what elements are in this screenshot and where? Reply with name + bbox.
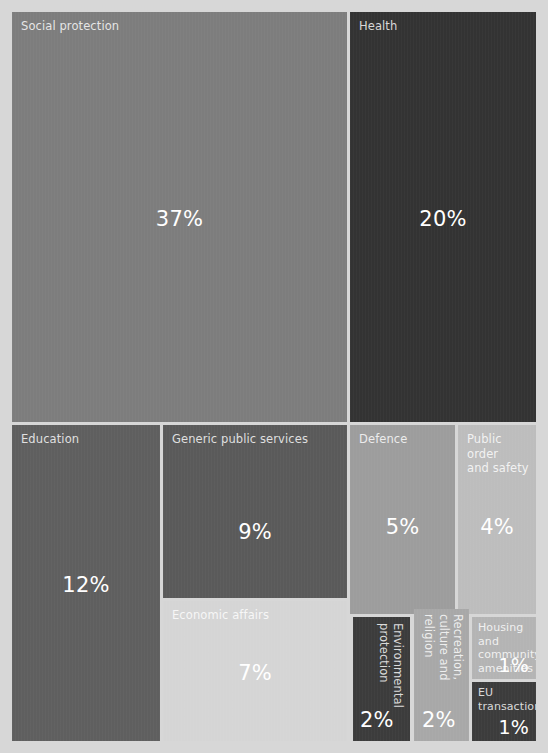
treemap-tile-eu-transactions[interactable]: EU transactions 1% — [472, 682, 536, 741]
treemap-tile-label-health: Health — [359, 19, 530, 34]
treemap-tile-label-social-protection: Social protection — [21, 19, 341, 34]
treemap-tile-label-eu-transactions: EU transactions — [478, 686, 530, 713]
treemap-tile-recreation-culture-and-religion[interactable]: Recreation, culture and religion 2% — [414, 609, 469, 741]
treemap-tile-housing-and-community-amenities[interactable]: Housing and community amenities 1% — [472, 617, 536, 679]
treemap-tile-value-housing-and-community-amenities: 1% — [498, 655, 529, 676]
treemap-tile-label-defence: Defence — [359, 432, 449, 447]
treemap-tile-value-defence: 5% — [350, 517, 455, 538]
treemap-tile-value-recreation-culture-and-religion: 2% — [422, 710, 456, 731]
treemap-tile-value-social-protection: 37% — [12, 209, 347, 230]
treemap-tile-value-generic-public-services: 9% — [163, 522, 347, 543]
treemap-tile-value-environmental-protection: 2% — [360, 710, 394, 731]
treemap-tile-value-education: 12% — [12, 575, 160, 596]
treemap-tile-environmental-protection[interactable]: Environmental protection 2% — [353, 617, 410, 741]
treemap-tile-economic-affairs[interactable]: Economic affairs 7% — [163, 601, 347, 741]
treemap-tile-generic-public-services[interactable]: Generic public services 9% — [163, 425, 347, 598]
treemap-tile-value-health: 20% — [350, 209, 536, 230]
treemap-tile-public-order-and-safety[interactable]: Public order and safety 4% — [458, 425, 536, 614]
treemap-tile-label-public-order-and-safety: Public order and safety — [467, 432, 530, 476]
treemap-tile-label-education: Education — [21, 432, 154, 447]
treemap-tile-social-protection[interactable]: Social protection 37% — [12, 12, 347, 422]
treemap-tile-education[interactable]: Education 12% — [12, 425, 160, 741]
treemap-tile-value-economic-affairs: 7% — [163, 663, 347, 684]
treemap-tile-label-economic-affairs: Economic affairs — [172, 608, 341, 623]
treemap-tile-health[interactable]: Health 20% — [350, 12, 536, 422]
treemap-tile-defence[interactable]: Defence 5% — [350, 425, 455, 614]
treemap-chart: Social protection 37% Health 20% Educati… — [0, 0, 548, 753]
treemap-tile-label-generic-public-services: Generic public services — [172, 432, 341, 447]
treemap-tile-value-public-order-and-safety: 4% — [458, 517, 536, 538]
treemap-tile-value-eu-transactions: 1% — [498, 717, 529, 738]
